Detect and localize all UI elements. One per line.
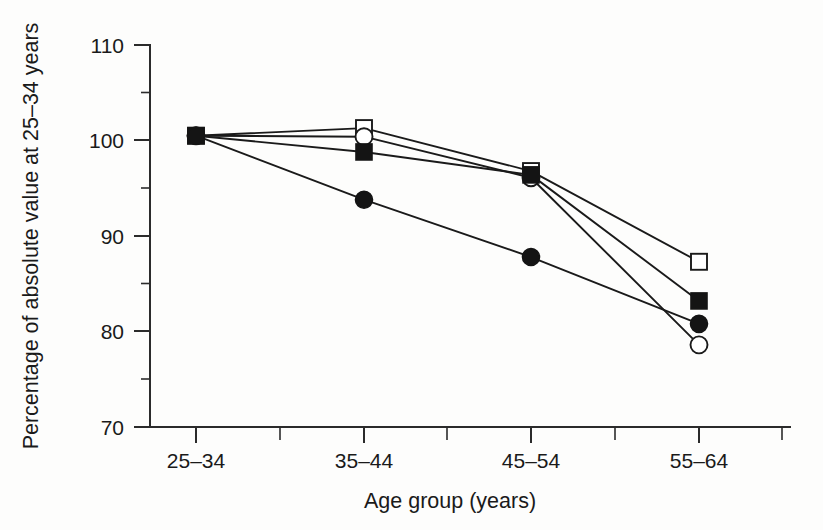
data-point-filled-square-55–64	[691, 293, 707, 309]
x-tick-label-45-54: 45–54	[502, 449, 561, 472]
data-point-filled-circle-35–44	[356, 191, 373, 208]
x-tick-label-35-44: 35–44	[335, 449, 394, 472]
data-point-filled-square-35–44	[356, 144, 372, 160]
y-tick-label-90: 90	[101, 225, 124, 248]
y-axis-title: Percentage of absolute value at 25–34 ye…	[19, 23, 43, 450]
data-point-filled-square-45–54	[523, 167, 539, 183]
data-point-open-square-55–64	[691, 254, 707, 270]
data-point-open-circle-55–64	[691, 336, 708, 353]
y-tick-label-110: 110	[91, 34, 124, 57]
series-layer	[188, 120, 708, 353]
series-line-open-square	[196, 128, 699, 262]
y-tick-label-70: 70	[101, 416, 124, 439]
series-line-filled-square	[196, 136, 699, 301]
data-point-filled-circle-45–54	[523, 249, 540, 266]
y-tick-label-100: 100	[89, 129, 124, 152]
chart-figure: 110 100 90 80 70 25–34 35–44 45–54 55–64…	[0, 0, 823, 530]
x-tick-label-55-64: 55–64	[670, 449, 729, 472]
x-axis-title: Age group (years)	[364, 489, 536, 513]
series-line-open-circle	[196, 136, 699, 345]
data-point-open-circle-35–44	[356, 128, 373, 145]
y-tick-label-80: 80	[101, 320, 124, 343]
data-point-filled-circle-55–64	[691, 315, 708, 332]
line-chart-plot: 110 100 90 80 70 25–34 35–44 45–54 55–64…	[0, 0, 823, 530]
y-axis	[134, 45, 150, 427]
x-axis	[150, 427, 790, 443]
data-point-filled-circle-25–34	[188, 127, 205, 144]
x-tick-label-25-34: 25–34	[167, 449, 226, 472]
